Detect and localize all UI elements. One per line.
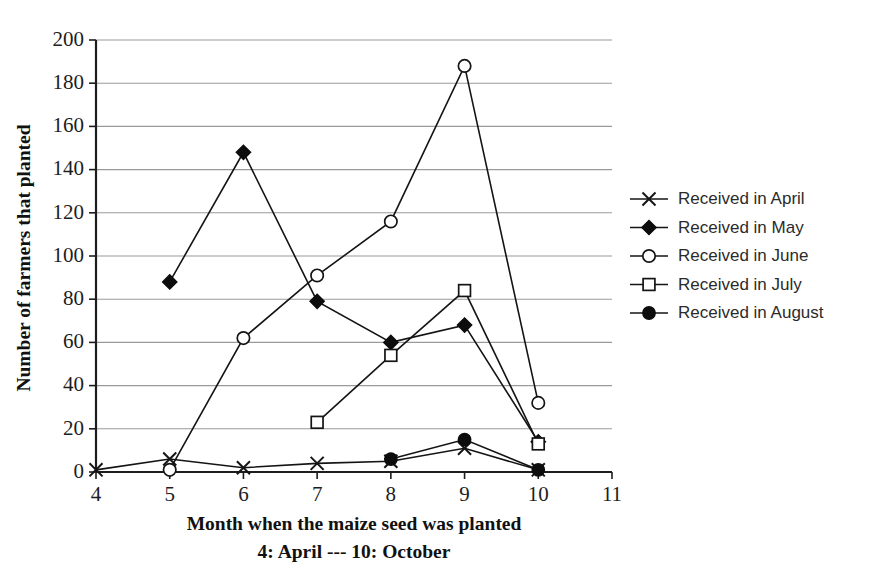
data-point	[532, 397, 544, 409]
x-tick-label-11: 11	[602, 482, 622, 506]
legend-marker-open-square-icon	[643, 279, 655, 291]
x-tick-label-4: 4	[91, 482, 102, 506]
y-tick-label-20: 20	[63, 416, 84, 440]
x-axis-subtitle: 4: April --- 10: October	[258, 541, 451, 562]
data-point	[237, 332, 249, 344]
y-tick-label-0: 0	[74, 459, 85, 483]
data-point	[385, 453, 397, 465]
data-point	[311, 269, 323, 281]
y-tick-label-120: 120	[53, 200, 85, 224]
legend-label: Received in August	[678, 303, 824, 322]
data-point	[459, 285, 471, 297]
y-tick-label-60: 60	[63, 329, 84, 353]
data-point	[458, 433, 470, 445]
data-point	[532, 464, 544, 476]
x-tick-label-5: 5	[164, 482, 175, 506]
data-point	[164, 464, 176, 476]
y-tick-label-160: 160	[53, 113, 85, 137]
data-point	[532, 438, 544, 450]
y-tick-label-200: 200	[53, 27, 85, 51]
x-tick-label-6: 6	[238, 482, 249, 506]
x-tick-label-7: 7	[312, 482, 323, 506]
data-point	[385, 349, 397, 361]
legend-label: Received in April	[678, 189, 805, 208]
y-tick-label-180: 180	[53, 70, 85, 94]
y-tick-label-40: 40	[63, 372, 84, 396]
legend-label: Received in July	[678, 275, 802, 294]
data-point	[458, 60, 470, 72]
y-tick-label-140: 140	[53, 156, 85, 180]
x-tick-label-9: 9	[459, 482, 470, 506]
y-axis-title: Number of farmers that planted	[13, 124, 34, 391]
y-tick-label-100: 100	[53, 243, 85, 267]
x-tick-label-8: 8	[386, 482, 397, 506]
line-chart: 020406080100120140160180200 4567891011 R…	[0, 0, 870, 580]
data-point	[385, 215, 397, 227]
legend-label: Received in May	[678, 218, 804, 237]
chart-figure: 020406080100120140160180200 4567891011 R…	[0, 0, 870, 580]
x-tick-label-10: 10	[528, 482, 549, 506]
y-tick-label-80: 80	[63, 286, 84, 310]
legend-label: Received in June	[678, 246, 808, 265]
x-axis-title: Month when the maize seed was planted	[187, 513, 522, 534]
legend-marker-open-circle-icon	[643, 250, 655, 262]
legend-marker-filled-circle-icon	[643, 307, 655, 319]
data-point	[311, 416, 323, 428]
